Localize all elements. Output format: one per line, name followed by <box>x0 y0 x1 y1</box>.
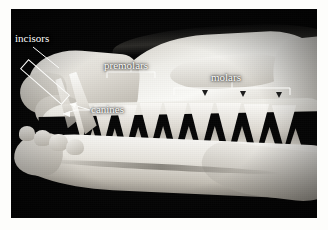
label-premolars: premolars <box>104 60 148 71</box>
skull-photograph <box>11 9 317 218</box>
lower-incisor <box>34 130 51 146</box>
label-incisors: incisors <box>15 33 49 44</box>
lower-incisor <box>49 134 67 151</box>
label-molars: molars <box>211 72 241 83</box>
label-canines: canines <box>91 104 124 115</box>
figure-container: incisors premolars canines molars <box>0 0 328 230</box>
lower-incisor <box>19 126 36 141</box>
lower-incisor <box>66 139 84 156</box>
